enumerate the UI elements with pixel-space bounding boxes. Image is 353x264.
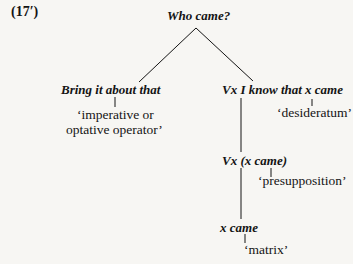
matrix-gloss: ‘matrix’ [244,243,288,257]
matrix-node: x came [220,221,258,234]
desideratum-gloss: ‘desideratum’ [277,106,352,120]
edge-root-left [139,28,196,82]
presupposition-gloss: ‘presupposition’ [258,174,347,188]
imperative-gloss-line2: optative operator’ [66,123,163,137]
presupposition-node: Vx (x came) [222,154,287,167]
imperative-gloss-line1: ‘imperative or [77,108,154,122]
tree-edges [0,0,353,264]
edge-root-right [196,28,253,81]
example-number: (17′) [11,5,38,19]
imperative-node: Bring it about that [61,83,160,96]
root-node: Who came? [167,9,230,22]
desideratum-node: Vx I know that x came [222,83,343,96]
